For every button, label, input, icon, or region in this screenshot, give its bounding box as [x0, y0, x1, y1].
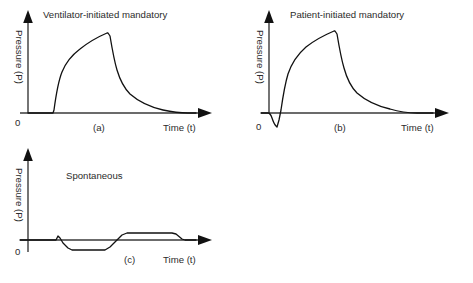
- panel-caption-b: (b): [334, 122, 346, 133]
- figure-pressure-time-waveforms: Pressure (P) 0 Ventilator-initiated mand…: [0, 0, 473, 283]
- x-axis-label-b: Time (t): [401, 122, 434, 133]
- panel-patient-initiated-mandatory: Pressure (P) 0 Patient-initiated mandato…: [237, 0, 473, 142]
- panel-title-c: Spontaneous: [66, 170, 123, 181]
- x-axis-label-c: Time (t): [163, 254, 196, 265]
- chart-b-svg: Pressure (P) 0 Patient-initiated mandato…: [237, 0, 473, 142]
- zero-label-a: 0: [15, 117, 20, 128]
- x-axis-arrow-icon-b: [435, 108, 449, 118]
- panel-title-b: Patient-initiated mandatory: [290, 9, 404, 20]
- chart-a-svg: Pressure (P) 0 Ventilator-initiated mand…: [0, 0, 237, 142]
- panel-spontaneous: Pressure (P) 0 Spontaneous (c) Time (t): [0, 142, 237, 283]
- x-axis-arrow-icon-a: [198, 108, 212, 118]
- x-axis-arrow-icon-c: [198, 235, 212, 245]
- y-axis-label-a: Pressure (P): [14, 30, 25, 84]
- chart-c-svg: Pressure (P) 0 Spontaneous (c) Time (t): [0, 142, 237, 283]
- y-axis-arrow-icon-b: [264, 10, 274, 23]
- x-axis-label-a: Time (t): [163, 122, 196, 133]
- panel-title-a: Ventilator-initiated mandatory: [43, 9, 167, 20]
- y-axis-arrow-icon-c: [23, 148, 33, 161]
- zero-label-c: 0: [15, 246, 20, 257]
- y-axis-label-b: Pressure (P): [255, 30, 266, 84]
- zero-label-b: 0: [256, 121, 261, 132]
- waveform-curve-c: [20, 233, 196, 250]
- panel-caption-a: (a): [93, 122, 105, 133]
- y-axis-label-c: Pressure (P): [14, 168, 25, 222]
- panel-caption-c: (c): [124, 254, 135, 265]
- panel-ventilator-initiated-mandatory: Pressure (P) 0 Ventilator-initiated mand…: [0, 0, 237, 142]
- waveform-curve-a: [28, 33, 196, 113]
- y-axis-arrow-icon-a: [23, 10, 33, 23]
